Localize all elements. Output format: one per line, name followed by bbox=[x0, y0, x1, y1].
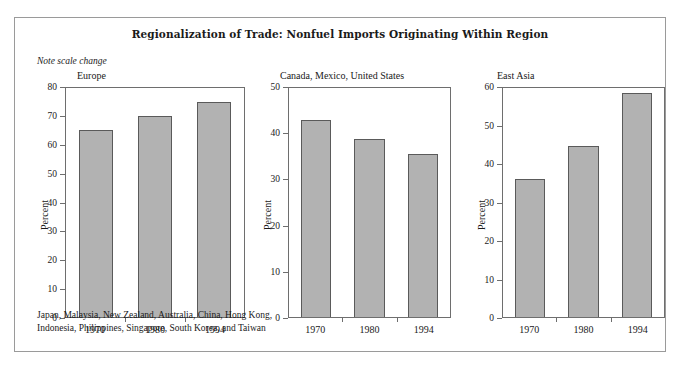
plot-area-east-asia bbox=[502, 87, 665, 318]
y-tick-nafta-20 bbox=[283, 226, 288, 227]
y-tick-east-asia-10 bbox=[497, 280, 502, 281]
y-tick-east-asia-40 bbox=[497, 164, 502, 165]
y-tick-label-nafta-40: 40 bbox=[254, 128, 280, 138]
y-tick-nafta-50 bbox=[283, 87, 288, 88]
bar-east-asia-1980 bbox=[568, 146, 599, 317]
y-tick-label-europe-60: 60 bbox=[31, 140, 57, 150]
y-tick-europe-50 bbox=[60, 174, 65, 175]
bar-nafta-1970 bbox=[301, 120, 332, 317]
plot-area-nafta bbox=[288, 87, 451, 318]
y-tick-label-europe-70: 70 bbox=[31, 111, 57, 121]
y-tick-label-europe-10: 10 bbox=[31, 284, 57, 294]
bar-europe-1994 bbox=[197, 102, 231, 317]
panel-title-nafta: Canada, Mexico, United States bbox=[280, 70, 404, 81]
y-tick-east-asia-20 bbox=[497, 241, 502, 242]
x-tick-east-asia-0 bbox=[556, 318, 557, 322]
y-tick-nafta-40 bbox=[283, 133, 288, 134]
x-tick-nafta-0 bbox=[342, 318, 343, 322]
y-tick-label-nafta-30: 30 bbox=[254, 174, 280, 184]
y-tick-label-east-asia-10: 10 bbox=[468, 275, 494, 285]
y-tick-label-east-asia-50: 50 bbox=[468, 121, 494, 131]
y-tick-label-europe-80: 80 bbox=[31, 82, 57, 92]
page-title: Regionalization of Trade: Nonfuel Import… bbox=[15, 28, 665, 40]
x-tick-label-nafta-1980: 1980 bbox=[360, 324, 380, 335]
bar-east-asia-1970 bbox=[515, 179, 546, 317]
plot-area-europe bbox=[65, 87, 245, 318]
panel-title-europe: Europe bbox=[77, 70, 106, 81]
x-tick-label-nafta-1970: 1970 bbox=[305, 324, 325, 335]
y-tick-label-east-asia-0: 0 bbox=[468, 313, 494, 323]
y-tick-nafta-0 bbox=[283, 318, 288, 319]
x-tick-label-nafta-1994: 1994 bbox=[414, 324, 434, 335]
x-tick-label-east-asia-1980: 1980 bbox=[574, 324, 594, 335]
footnote: Japan, Malaysia, New Zealand, Australia,… bbox=[37, 309, 272, 335]
y-tick-label-europe-20: 20 bbox=[31, 255, 57, 265]
y-tick-east-asia-60 bbox=[497, 87, 502, 88]
y-tick-label-nafta-20: 20 bbox=[254, 221, 280, 231]
bar-nafta-1994 bbox=[408, 154, 439, 317]
y-tick-nafta-30 bbox=[283, 179, 288, 180]
bar-group-europe bbox=[66, 88, 244, 317]
bar-group-nafta bbox=[289, 88, 450, 317]
bar-europe-1970 bbox=[79, 130, 113, 317]
y-tick-east-asia-50 bbox=[497, 126, 502, 127]
y-tick-europe-30 bbox=[60, 231, 65, 232]
y-tick-europe-40 bbox=[60, 203, 65, 204]
y-tick-label-europe-50: 50 bbox=[31, 169, 57, 179]
y-tick-europe-10 bbox=[60, 289, 65, 290]
x-tick-nafta-1 bbox=[397, 318, 398, 322]
bar-east-asia-1994 bbox=[622, 93, 653, 317]
note-scale-change-label: Note scale change bbox=[37, 56, 107, 66]
y-tick-label-nafta-50: 50 bbox=[254, 82, 280, 92]
y-tick-label-nafta-10: 10 bbox=[254, 267, 280, 277]
y-tick-label-east-asia-40: 40 bbox=[468, 159, 494, 169]
y-tick-east-asia-0 bbox=[497, 318, 502, 319]
figure-container: Regionalization of Trade: Nonfuel Import… bbox=[14, 17, 666, 352]
bar-group-east-asia bbox=[503, 88, 664, 317]
y-tick-europe-80 bbox=[60, 87, 65, 88]
y-tick-europe-70 bbox=[60, 116, 65, 117]
bar-nafta-1980 bbox=[354, 139, 385, 317]
bar-europe-1980 bbox=[138, 116, 172, 317]
y-tick-nafta-10 bbox=[283, 272, 288, 273]
y-tick-label-europe-40: 40 bbox=[31, 198, 57, 208]
y-tick-label-east-asia-60: 60 bbox=[468, 82, 494, 92]
x-tick-label-east-asia-1970: 1970 bbox=[519, 324, 539, 335]
y-tick-label-east-asia-20: 20 bbox=[468, 236, 494, 246]
y-tick-europe-60 bbox=[60, 145, 65, 146]
y-tick-europe-20 bbox=[60, 260, 65, 261]
y-tick-east-asia-30 bbox=[497, 203, 502, 204]
x-tick-east-asia-1 bbox=[611, 318, 612, 322]
x-tick-label-east-asia-1994: 1994 bbox=[628, 324, 648, 335]
panel-title-east-asia: East Asia bbox=[497, 70, 535, 81]
y-tick-label-europe-30: 30 bbox=[31, 226, 57, 236]
y-tick-label-east-asia-30: 30 bbox=[468, 198, 494, 208]
